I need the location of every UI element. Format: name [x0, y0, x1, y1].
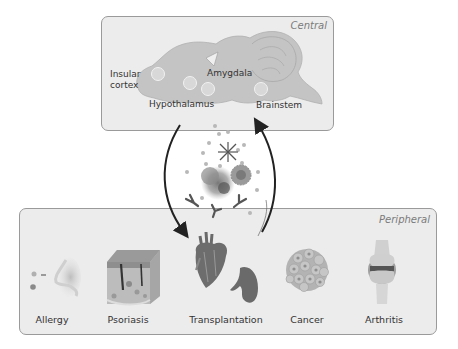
immune-cells-icon [201, 165, 251, 200]
condition-label-allergy: Allergy [35, 314, 68, 325]
up-arrow-icon [258, 124, 275, 232]
heart-kidney-icon [196, 232, 258, 303]
knee-joint-icon [368, 240, 396, 304]
brain-region-label-amygdala: Amygdala [207, 68, 252, 79]
brain-region-label-insular: Insularcortex [110, 69, 140, 91]
condition-label-psoriasis: Psoriasis [107, 314, 148, 325]
brain-region-label-hypothalamus: Hypothalamus [149, 99, 214, 110]
condition-label-cancer: Cancer [290, 314, 323, 325]
snowflake-molecule-icon [218, 142, 238, 162]
diagram-graphics [0, 0, 458, 349]
brain-region-label-brainstem: Brainstem [256, 100, 302, 111]
skin-cross-section-icon [107, 250, 160, 305]
down-arrow-icon [165, 125, 184, 232]
condition-label-transplantation: Transplantation [189, 314, 262, 325]
nose-allergen-icon [30, 257, 81, 297]
tumor-cell-cluster-icon [286, 249, 329, 292]
condition-label-arthritis: Arthritis [365, 314, 403, 325]
